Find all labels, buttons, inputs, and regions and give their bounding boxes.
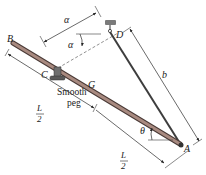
half-length-line-upper xyxy=(8,54,94,108)
b-dimension: b xyxy=(122,27,202,145)
extension-line xyxy=(95,6,101,17)
point-a-label: A xyxy=(183,143,191,154)
cable-da xyxy=(110,32,181,145)
half-length-lower-num: L xyxy=(120,150,126,160)
theta-label: θ xyxy=(140,125,145,136)
pin-a xyxy=(179,143,184,148)
half-length-lower-den: 2 xyxy=(121,161,126,171)
alpha-angle-arc xyxy=(80,34,82,46)
extension-line xyxy=(122,27,131,33)
point-b-label: B xyxy=(7,33,13,44)
rod-ba xyxy=(13,43,180,144)
point-d-label: D xyxy=(115,29,124,40)
statics-diagram: α α D b C G B Smooth peg L 2 xyxy=(0,0,206,175)
support-d xyxy=(105,20,116,33)
peg-label-line1: Smooth xyxy=(57,87,87,97)
alpha-angle-label: α xyxy=(68,39,74,50)
half-length-upper-num: L xyxy=(36,103,42,113)
dashed-reference-line xyxy=(58,33,118,68)
b-label: b xyxy=(162,69,167,80)
point-g-label: G xyxy=(88,79,95,90)
half-length-upper-den: 2 xyxy=(37,114,42,124)
alpha-dimension-line xyxy=(44,13,96,42)
extension-line xyxy=(193,139,202,145)
alpha-top-label: α xyxy=(64,14,70,25)
half-length-line-lower xyxy=(96,110,164,163)
peg-label-line2: peg xyxy=(67,98,81,108)
extension-line xyxy=(5,49,9,56)
ceiling-bracket xyxy=(105,20,116,25)
